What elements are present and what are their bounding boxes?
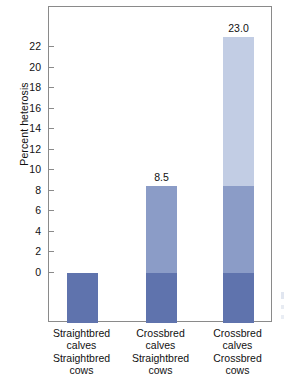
y-tick-label: 4 xyxy=(3,225,41,238)
bar-crossbred-crossbred[interactable]: 23.0 xyxy=(223,7,254,323)
y-tick-label: 12 xyxy=(3,143,41,156)
bar-segment-base xyxy=(223,273,254,323)
plot-area: 2220181614121086420 8.523.0 xyxy=(48,6,272,322)
y-tick-label: 8 xyxy=(3,184,41,197)
y-tick-mark xyxy=(49,251,54,252)
bar-chart-figure: Percent heterosis 2220181614121086420 8.… xyxy=(0,0,290,379)
y-tick-label: 20 xyxy=(3,61,41,74)
bar-segment-base xyxy=(67,273,98,323)
y-tick-mark xyxy=(49,108,54,109)
y-tick-label: 22 xyxy=(3,40,41,53)
x-category-label-crossbred-crossbred: CrossbredcalvesCrossbredcows xyxy=(190,327,286,377)
x-category-label-line: calves xyxy=(190,339,286,351)
y-tick-label: 10 xyxy=(3,163,41,176)
page-artifact xyxy=(281,315,284,319)
y-tick-mark xyxy=(49,190,54,191)
x-category-label-line: cows xyxy=(190,364,286,376)
y-tick-label: 6 xyxy=(3,204,41,217)
y-tick-mark xyxy=(49,87,54,88)
y-tick-mark xyxy=(49,272,54,273)
y-tick-label: 18 xyxy=(3,81,41,94)
y-tick-label: 14 xyxy=(3,122,41,135)
y-tick-mark xyxy=(49,210,54,211)
bar-value-label: 23.0 xyxy=(213,22,264,34)
y-tick-label: 16 xyxy=(3,102,41,115)
x-category-label-line: Crossbred xyxy=(190,352,286,364)
bar-crossbred-straightbred[interactable]: 8.5 xyxy=(146,7,177,323)
bar-straightbred-straightbred[interactable] xyxy=(67,7,98,323)
bar-segment-maternal-heterosis xyxy=(223,37,254,186)
y-tick-mark xyxy=(49,169,54,170)
y-tick-mark xyxy=(49,149,54,150)
page-artifact xyxy=(281,305,284,309)
bar-segment-individual-heterosis xyxy=(146,186,177,273)
y-tick-label: 0 xyxy=(3,266,41,279)
y-tick-mark xyxy=(49,67,54,68)
y-tick-mark xyxy=(49,128,54,129)
bar-segment-individual-heterosis xyxy=(223,186,254,273)
y-tick-mark xyxy=(49,231,54,232)
y-tick-label: 2 xyxy=(3,245,41,258)
x-category-label-line: Crossbred xyxy=(190,327,286,339)
page-artifact xyxy=(281,292,284,299)
bar-segment-base xyxy=(146,273,177,323)
bar-value-label: 8.5 xyxy=(136,171,187,183)
y-tick-mark xyxy=(49,46,54,47)
